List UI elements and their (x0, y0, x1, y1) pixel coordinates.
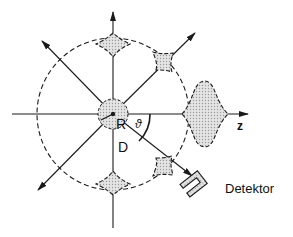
radius-label: R (116, 117, 126, 131)
distance-label: D (118, 140, 128, 154)
lower-right-lobe (153, 156, 173, 176)
forward-lobe (182, 81, 228, 147)
z-axis-label: z (237, 120, 243, 132)
bottom-lobe (96, 171, 130, 195)
detector-label: Detektor (225, 182, 274, 195)
upper-right-lobe (153, 52, 173, 72)
detector-icon (180, 171, 207, 197)
diagonal-up-left (42, 41, 113, 114)
diagram-graphic (0, 0, 293, 237)
angle-label: ϑ (135, 118, 142, 130)
top-lobe (96, 33, 130, 57)
scattering-diagram: R D ϑ z Detektor (0, 0, 293, 237)
diagonal-down-left (38, 114, 113, 190)
